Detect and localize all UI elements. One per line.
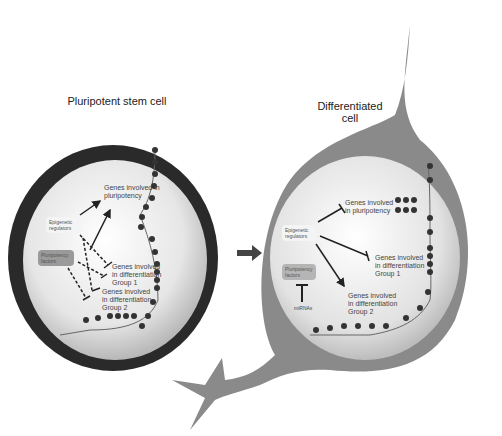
transition-arrow xyxy=(237,245,262,261)
diff-pluripotency-factors-label: Pluripotency factors xyxy=(282,264,316,280)
stem-epigenetic-label: Epigenetic regulators xyxy=(46,217,82,233)
diff-epigenetic-label: Epigenetic regulators xyxy=(282,225,316,241)
differentiated-cell-title: Differentiated cell xyxy=(310,100,390,124)
mirnas-label: miRNAs xyxy=(294,304,312,312)
differentiated-cell xyxy=(172,25,468,430)
stem-cell-title: Pluripotent stem cell xyxy=(52,95,182,107)
stem-genes-g1-label: Genes involved in differentiation Group … xyxy=(112,263,162,287)
differentiated-title-line2: cell xyxy=(310,112,390,124)
stem-genes-g2-label: Genes involved in differentiation Group … xyxy=(102,288,152,312)
stem-genes-pluri-label: Genes involved in pluripotency xyxy=(104,184,164,200)
differentiated-title-line1: Differentiated xyxy=(310,100,390,112)
diff-genes-g2-label: Genes involved in differentiation Group … xyxy=(348,292,400,316)
stem-pluripotency-factors-label: Pluripotency factors xyxy=(38,250,74,266)
diff-genes-g1-label: Genes involved in differentiation Group … xyxy=(375,254,427,278)
diff-genes-pluri-label: Genes involved in pluripotency xyxy=(345,199,397,215)
